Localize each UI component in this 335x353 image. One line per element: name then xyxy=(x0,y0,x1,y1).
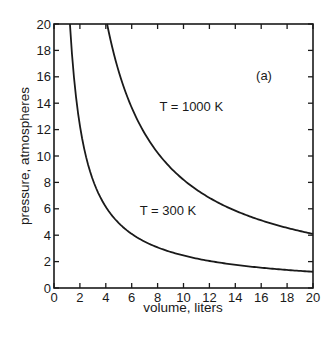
isotherm-curve-1 xyxy=(107,24,313,234)
y-tick-label: 14 xyxy=(37,96,51,111)
x-tick-label: 2 xyxy=(76,290,83,305)
x-tick-label: 6 xyxy=(128,290,135,305)
x-tick-label: 0 xyxy=(50,290,57,305)
x-tick-label: 14 xyxy=(228,290,242,305)
y-tick-label: 6 xyxy=(44,201,51,216)
isotherm-curves xyxy=(70,24,313,272)
pv-isotherm-chart: 02468101214161820 02468101214161820 T = … xyxy=(0,0,335,353)
x-tick-label: 18 xyxy=(280,290,294,305)
y-tick-label: 12 xyxy=(37,122,51,137)
y-tick-label: 10 xyxy=(37,149,51,164)
x-axis-ticks: 02468101214161820 xyxy=(50,24,320,305)
y-tick-label: 20 xyxy=(37,17,51,32)
y-tick-label: 4 xyxy=(44,228,51,243)
plot-frame xyxy=(54,24,313,288)
x-tick-label: 4 xyxy=(102,290,109,305)
x-tick-label: 20 xyxy=(306,290,320,305)
y-tick-label: 2 xyxy=(44,254,51,269)
curve-label: T = 1000 K xyxy=(159,99,223,114)
panel-label: (a) xyxy=(256,68,272,83)
plot-border xyxy=(54,24,313,288)
isotherm-curve-0 xyxy=(70,24,313,272)
x-axis-title: volume, liters xyxy=(143,300,223,315)
y-tick-label: 0 xyxy=(44,281,51,296)
curve-labels: T = 300 KT = 1000 K xyxy=(140,99,224,218)
y-tick-label: 16 xyxy=(37,69,51,84)
x-tick-label: 16 xyxy=(254,290,268,305)
y-tick-label: 18 xyxy=(37,43,51,58)
curve-label: T = 300 K xyxy=(140,203,197,218)
y-axis-title: pressure, atmospheres xyxy=(17,87,32,225)
y-tick-label: 8 xyxy=(44,175,51,190)
